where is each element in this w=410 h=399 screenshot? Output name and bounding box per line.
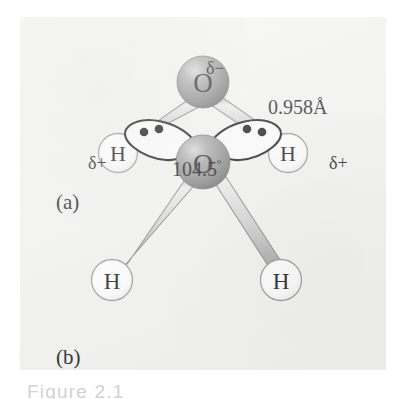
bond-angle-label: 104.5º (172, 157, 221, 179)
lone-pair-electron-dot (243, 125, 252, 134)
delta-plus-right-label: δ+ (329, 154, 348, 172)
panel-b-hydrogen-left-symbol: H (104, 269, 121, 294)
panel-a-hydrogen-right-symbol: H (280, 141, 296, 166)
panel-label-b: (b) (56, 347, 81, 368)
bond-angle-value: 104.5 (172, 158, 217, 180)
panel-b-hydrogen-right-symbol: H (273, 269, 290, 294)
panel-b-hydrogen-right-atom: H (261, 260, 302, 301)
lone-pair-electron-dot (155, 125, 164, 134)
bond-length-label: 0.958Å (268, 97, 327, 117)
delta-plus-left-label: δ+ (88, 154, 107, 172)
delta-minus-label: δ− (206, 59, 225, 77)
lone-pair-electron-dot (258, 128, 267, 137)
panel-label-a: (a) (56, 192, 79, 213)
figure-caption: Figure 2.1 (27, 381, 125, 399)
degree-symbol: º (217, 156, 221, 171)
panel-b-hydrogen-left-atom: H (92, 260, 133, 301)
lone-pair-electron-dot (140, 128, 149, 137)
figure-panel: H H O (20, 17, 386, 370)
panel-a-hydrogen-left-symbol: H (110, 141, 126, 166)
